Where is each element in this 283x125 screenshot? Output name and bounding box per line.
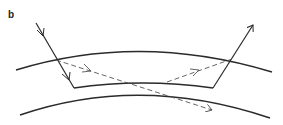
dashed-ray-up [167,59,232,82]
incident-ray [36,23,74,88]
dashed-mid-arrow-icon [82,64,91,72]
ray-diagram [0,0,283,125]
exit-ray [213,25,253,88]
dashed-up-arrow-icon [190,69,199,76]
lower-boundary-curve [20,95,270,118]
inner-boundary-curve [74,83,213,88]
incident-arrow-icon [37,28,44,36]
